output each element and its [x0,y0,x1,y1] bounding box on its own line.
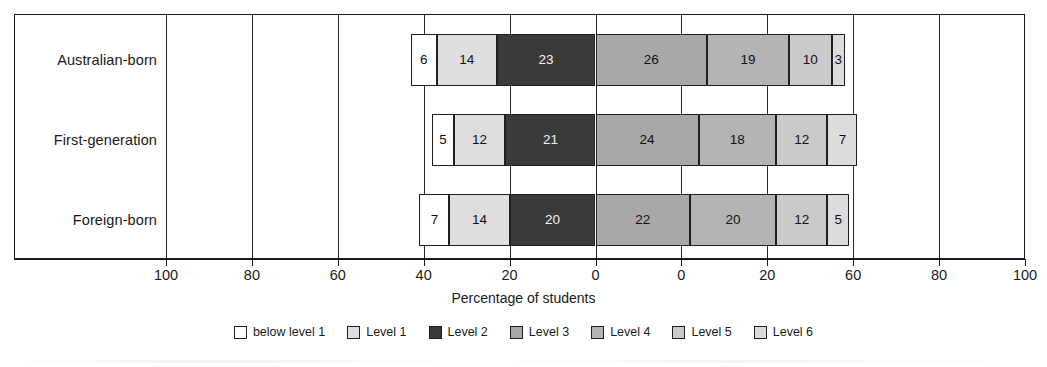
x-tick-label: 60 [823,268,883,283]
legend-swatch-icon [591,326,604,339]
x-tick [681,259,682,266]
bar-segment: 26 [596,34,708,86]
bar-segment: 10 [789,34,832,86]
bar-segment-value: 26 [644,53,659,67]
bar-segment-value: 12 [794,213,809,227]
bar-segment: 22 [596,194,690,246]
legend-item[interactable]: below level 1 [234,326,325,339]
x-tick-label: 100 [995,268,1047,283]
legend-label: Level 5 [691,326,731,339]
legend-item[interactable]: Level 1 [347,326,406,339]
bar-segment-value: 24 [640,133,655,147]
bar-segment-value: 7 [839,133,847,147]
bar-segment-value: 12 [472,133,487,147]
bar-segment: 7 [419,194,449,246]
bar-segment: 12 [776,114,828,166]
bar-segment-value: 20 [725,213,740,227]
bar-segment: 12 [776,194,828,246]
bar-segment-value: 14 [459,53,474,67]
x-tick-label: 20 [480,268,540,283]
x-tick [252,259,253,266]
bar-segment-value: 5 [439,133,447,147]
x-tick-label: 40 [394,268,454,283]
chart-legend: below level 1Level 1Level 2Level 3Level … [0,326,1047,339]
bar-segment: 5 [827,194,848,246]
bar-segment-value: 20 [545,213,560,227]
bar-row: 614232619103 [0,34,1047,86]
bar-segment-value: 22 [635,213,650,227]
bar-segment-value: 5 [834,213,842,227]
x-tick [939,259,940,266]
stacked-bar-chart: Australian-bornFirst-generationForeign-b… [0,0,1047,367]
x-tick-label: 20 [737,268,797,283]
bar-row: 714202220125 [0,194,1047,246]
bar-row: 512212418127 [0,114,1047,166]
bar-segment: 18 [699,114,776,166]
bar-segment: 20 [510,194,596,246]
bar-segment: 24 [596,114,699,166]
legend-swatch-icon [754,326,767,339]
bar-segment-value: 7 [431,213,439,227]
bar-segment-value: 19 [740,53,755,67]
x-tick-label: 100 [136,268,196,283]
bar-segment: 14 [437,34,497,86]
legend-swatch-icon [347,326,360,339]
bar-segment: 5 [432,114,453,166]
legend-label: Level 6 [773,326,813,339]
bar-segment-value: 14 [472,213,487,227]
legend-label: below level 1 [253,326,325,339]
x-tick [338,259,339,266]
x-tick [853,259,854,266]
x-tick [767,259,768,266]
bar-segment-value: 10 [803,53,818,67]
x-tick [166,259,167,266]
x-tick-label: 80 [222,268,282,283]
legend-label: Level 3 [529,326,569,339]
legend-item[interactable]: Level 5 [672,326,731,339]
bar-segment: 21 [505,114,595,166]
bar-segment-value: 18 [730,133,745,147]
x-tick [1025,259,1026,266]
x-tick-label: 60 [308,268,368,283]
bar-segment-value: 12 [794,133,809,147]
bar-segment: 23 [497,34,596,86]
x-tick [510,259,511,266]
legend-swatch-icon [510,326,523,339]
bar-segment: 3 [832,34,845,86]
x-tick-label: 0 [566,268,626,283]
bar-segment-value: 6 [420,53,428,67]
x-tick-label: 0 [651,268,711,283]
bar-segment-value: 3 [834,53,842,67]
x-tick [596,259,597,266]
legend-swatch-icon [429,326,442,339]
legend-swatch-icon [672,326,685,339]
legend-swatch-icon [234,326,247,339]
x-tick-label: 80 [909,268,969,283]
legend-item[interactable]: Level 6 [754,326,813,339]
x-tick [424,259,425,266]
bar-segment: 12 [454,114,506,166]
legend-label: Level 1 [366,326,406,339]
bar-segment: 6 [411,34,437,86]
bar-segment: 7 [827,114,857,166]
bar-segment: 20 [690,194,776,246]
scan-artifact [0,360,1047,363]
bar-segment: 14 [449,194,509,246]
legend-label: Level 2 [448,326,488,339]
legend-label: Level 4 [610,326,650,339]
legend-item[interactable]: Level 4 [591,326,650,339]
legend-item[interactable]: Level 3 [510,326,569,339]
bar-segment-value: 23 [539,53,554,67]
legend-item[interactable]: Level 2 [429,326,488,339]
bar-segment-value: 21 [543,133,558,147]
bar-segment: 19 [707,34,789,86]
x-axis-title: Percentage of students [0,291,1047,305]
